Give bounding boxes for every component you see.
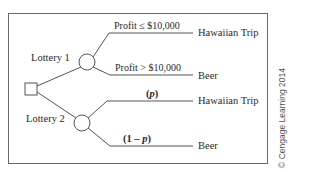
lottery1-label: Lottery 1 <box>31 52 70 64</box>
prob-close: ) <box>148 133 152 144</box>
lottery1-branch2-outcome: Beer <box>198 70 218 82</box>
lottery1-branch1-outcome: Hawaiian Trip <box>198 27 258 39</box>
lottery1-chance-node <box>79 54 95 70</box>
prob-close: ) <box>155 88 159 99</box>
lottery2-branch1-probability: (p) <box>146 88 158 100</box>
lottery1-branch1-condition: Profit ≤ $10,000 <box>114 20 180 32</box>
lottery2-chance-node <box>74 115 90 131</box>
decision-node-square <box>25 83 37 95</box>
lottery2-branch-upper <box>88 101 193 118</box>
edge-decision-lottery1 <box>37 67 81 86</box>
lottery2-branch2-probability: (1 – p) <box>123 133 151 145</box>
lottery2-branch1-outcome: Hawaiian Trip <box>198 95 258 107</box>
prob-open: (1 – <box>123 133 142 144</box>
lottery1-branch2-condition: Profit > $10,000 <box>115 62 181 74</box>
lottery2-branch2-outcome: Beer <box>198 140 218 152</box>
copyright-notice: © Cengage Learning 2014 <box>277 68 287 168</box>
lottery2-label: Lottery 2 <box>26 113 65 125</box>
lottery1-branch-upper <box>93 33 193 57</box>
